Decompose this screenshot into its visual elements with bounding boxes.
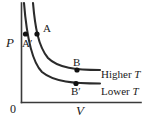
point-dot-b bbox=[74, 67, 79, 72]
isotherm-higher-t-curve bbox=[33, 3, 100, 70]
isotherm-lower-t-curve bbox=[24, 3, 100, 84]
x-axis-label: V bbox=[76, 104, 84, 117]
point-label-b: B bbox=[73, 57, 80, 68]
point-label-b-prime: B′ bbox=[71, 86, 81, 97]
y-axis-label: P bbox=[6, 36, 14, 49]
point-dot-a bbox=[34, 31, 39, 36]
origin-label: 0 bbox=[10, 103, 16, 115]
legend-label-higher-t: Higher T bbox=[101, 69, 140, 80]
legend-higher-t-text: Higher bbox=[101, 68, 134, 80]
point-label-a-prime: A′ bbox=[22, 38, 32, 49]
pv-diagram-figure: P V 0 A′ A B B′ Higher T Lower T bbox=[0, 0, 152, 122]
legend-higher-t-symbol: T bbox=[134, 68, 140, 80]
legend-label-lower-t: Lower T bbox=[101, 86, 139, 97]
point-dot-a-prime bbox=[23, 31, 28, 36]
legend-lower-t-text: Lower bbox=[101, 85, 132, 97]
legend-lower-t-symbol: T bbox=[132, 85, 138, 97]
point-label-a: A bbox=[43, 23, 51, 34]
